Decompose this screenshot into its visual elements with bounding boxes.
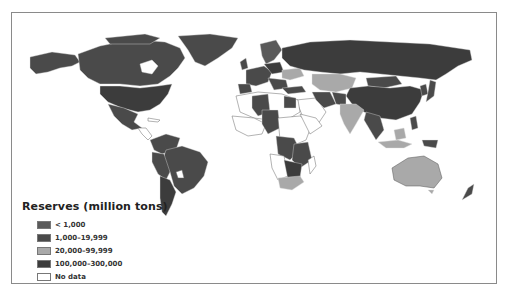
region-papua	[422, 140, 438, 148]
legend-label: < 1,000	[55, 221, 85, 229]
region-philippines	[410, 116, 418, 130]
region-australia	[392, 156, 442, 188]
legend-swatch	[37, 273, 51, 281]
map-legend: Reserves (million tons) < 1,000 1,000–19…	[22, 200, 168, 284]
region-ukraine	[282, 68, 304, 80]
legend-label: 20,000–99,999	[55, 247, 113, 255]
region-uk	[240, 58, 248, 70]
region-new-zealand	[462, 184, 474, 200]
region-greenland	[178, 34, 238, 66]
legend-swatch	[37, 260, 51, 268]
legend-item-20000-99999: 20,000–99,999	[37, 245, 168, 257]
legend-label: 100,000–300,000	[55, 260, 122, 268]
region-russia	[282, 40, 472, 80]
legend-item-1000-19999: 1,000–19,999	[37, 232, 168, 244]
legend-item-no-data: No data	[37, 271, 168, 283]
region-india	[340, 104, 364, 134]
region-south-africa	[278, 176, 304, 190]
region-tasmania	[428, 190, 434, 194]
region-iberia	[238, 84, 252, 94]
legend-title: Reserves (million tons)	[22, 200, 168, 213]
region-scandinavia	[260, 40, 282, 64]
legend-label: 1,000–19,999	[55, 234, 108, 242]
region-canada	[78, 40, 185, 86]
region-central-america	[138, 128, 152, 140]
legend-label: No data	[55, 273, 86, 281]
region-cuba	[148, 118, 160, 122]
region-egypt	[284, 96, 296, 108]
legend-swatch	[37, 247, 51, 255]
region-indonesia	[378, 140, 412, 148]
legend-swatch	[37, 234, 51, 242]
region-alaska	[30, 52, 80, 74]
region-arctic-islands	[105, 34, 160, 44]
legend-item-100000-300000: 100,000–300,000	[37, 258, 168, 270]
region-borneo	[394, 128, 406, 140]
region-niger-nigeria	[262, 110, 280, 134]
legend-item-lt-1000: < 1,000	[37, 219, 168, 231]
legend-swatch	[37, 221, 51, 229]
